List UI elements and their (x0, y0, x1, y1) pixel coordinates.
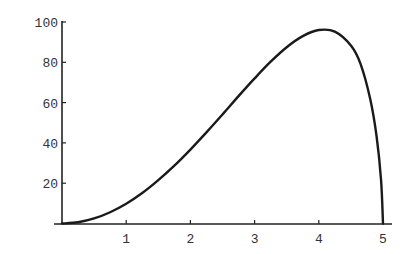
y-axis: 20406080100 (35, 16, 66, 224)
y-tick-label: 80 (42, 56, 58, 71)
data-curve (62, 30, 383, 224)
x-tick-label: 2 (186, 232, 194, 247)
x-tick-label: 5 (379, 232, 387, 247)
y-tick-label: 60 (42, 97, 58, 112)
x-tick-label: 4 (315, 232, 323, 247)
x-axis: 12345 (54, 220, 392, 247)
y-tick-label: 20 (42, 177, 58, 192)
x-tick-label: 1 (122, 232, 130, 247)
y-tick-label: 40 (42, 137, 58, 152)
line-chart: 20406080100 12345 (0, 0, 408, 254)
y-tick-label: 100 (35, 16, 58, 31)
x-tick-label: 3 (251, 232, 259, 247)
